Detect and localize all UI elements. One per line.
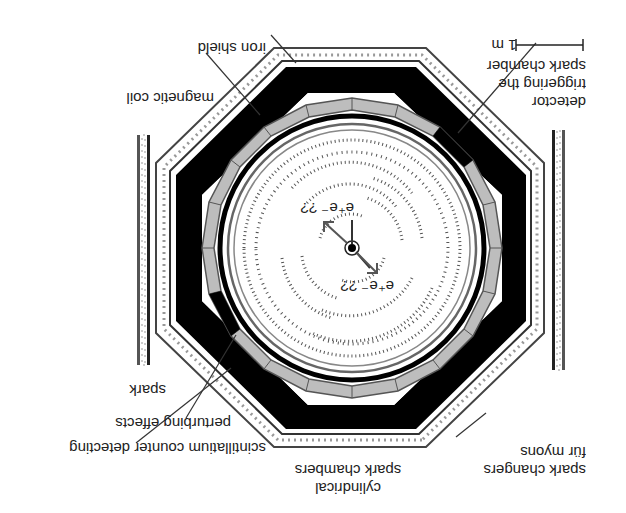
left-spark-chamber-bar <box>552 130 565 370</box>
label-detector-line2: triggering the <box>498 76 586 93</box>
label-eq-lower: e⁺e⁻ ?? <box>300 200 354 217</box>
detector-diagram: 1 m spark chamber triggering the detecto… <box>0 0 626 513</box>
label-spark-changers-line1: spark changers <box>483 462 586 479</box>
detector-svg: 1 m spark chamber triggering the detecto… <box>0 0 626 513</box>
label-detector-line1: detector <box>532 94 586 111</box>
label-scintillatium-counter: scintillatium counter detecting <box>69 440 266 457</box>
label-cylindrical-line1: cylindrical <box>315 480 381 497</box>
label-perturbing-effects: perturbing effects <box>115 415 231 432</box>
scale-bar-label: 1 m <box>491 37 516 54</box>
label-cylindrical-line2: spark chambers <box>295 462 402 479</box>
label-eq-upper: e⁺e⁻ ?? <box>340 278 394 295</box>
scale-bar <box>516 39 583 51</box>
label-detector-line3: spark chamber <box>487 58 586 75</box>
label-magnetic-coil: magnetic coil <box>126 90 214 107</box>
label-spark-changers-line2: für myons <box>520 444 586 461</box>
label-spark: spark <box>129 382 166 399</box>
label-iron-shield: iron shield <box>198 40 266 57</box>
right-spark-chamber-bar <box>137 135 150 365</box>
